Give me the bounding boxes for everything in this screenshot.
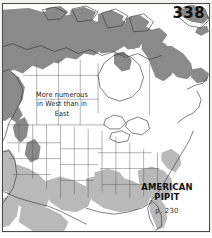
range-annotation-line-1: More numerous [20, 90, 104, 99]
range-map-plate: More numerous in West than in East 338 A… [0, 0, 212, 238]
species-caption: AMERICAN PIPIT p. 230 [133, 182, 201, 215]
species-page-reference: p. 230 [133, 207, 201, 215]
range-annotation: More numerous in West than in East [20, 90, 104, 118]
map-frame: More numerous in West than in East 338 A… [2, 3, 210, 232]
species-name-line-2: PIPIT [133, 192, 201, 203]
plate-bottom-margin [0, 233, 212, 238]
range-annotation-line-3: East [20, 109, 104, 118]
range-annotation-line-2: in West than in [20, 99, 104, 108]
page-number: 338 [172, 6, 205, 21]
